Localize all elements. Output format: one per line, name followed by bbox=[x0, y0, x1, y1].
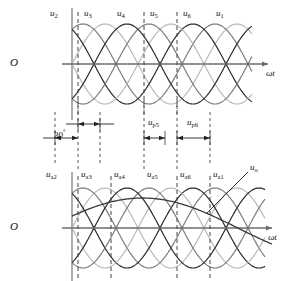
dim-up6-arrow-left bbox=[177, 136, 183, 141]
curve-label-ua3: ua3 bbox=[81, 170, 92, 179]
top-axis-label: ωt bbox=[266, 68, 275, 78]
top-axis-arrowhead bbox=[262, 61, 268, 66]
angle-30-label: 30° bbox=[54, 129, 65, 140]
curve-label-ua6: ua6 bbox=[180, 170, 191, 179]
bottom-origin-label: O bbox=[10, 220, 18, 232]
top-origin-label: O bbox=[10, 56, 18, 68]
curve-label-u5: u5 bbox=[150, 9, 158, 18]
bottom-output-curve-uo bbox=[72, 198, 272, 244]
dim-upper-30-arrow-right bbox=[94, 122, 100, 127]
dim-lower-30-arrow-right bbox=[72, 136, 78, 141]
waveform-figure: O ωt u2 u3 u4 u5 u6 u1 30° up5 up6 O ωt … bbox=[0, 0, 290, 281]
top-axis-text: ωt bbox=[266, 68, 275, 78]
curve-label-u6: u6 bbox=[183, 9, 191, 18]
bottom-origin-text: O bbox=[10, 220, 18, 232]
curve-label-u3: u3 bbox=[84, 9, 92, 18]
curve-label-uo: uo bbox=[250, 163, 258, 172]
dim-up6-arrow-right bbox=[204, 136, 210, 141]
curve-label-ua1: ua1 bbox=[213, 170, 224, 179]
curve-label-ua2: ua2 bbox=[46, 170, 57, 179]
curve-label-u2: u2 bbox=[50, 9, 58, 18]
curve-label-u1: u1 bbox=[216, 9, 224, 18]
dim-upper-30-arrow-left bbox=[78, 122, 84, 127]
curve-label-u4: u4 bbox=[117, 9, 125, 18]
bottom-axis-arrowhead bbox=[266, 225, 272, 230]
curve-label-ua5: ua5 bbox=[147, 170, 158, 179]
curve-label-ua4: ua4 bbox=[114, 170, 125, 179]
bottom-axis-text: ωt bbox=[268, 232, 277, 242]
top-origin-text: O bbox=[10, 56, 18, 68]
bottom-axis-label: ωt bbox=[268, 232, 277, 242]
dim-label-up6: up6 bbox=[187, 118, 198, 127]
dim-label-up5: up5 bbox=[148, 118, 159, 127]
top-panel-plot bbox=[0, 0, 290, 281]
dim-up5-arrow-right bbox=[159, 136, 165, 141]
dim-up5-arrow-left bbox=[144, 136, 150, 141]
